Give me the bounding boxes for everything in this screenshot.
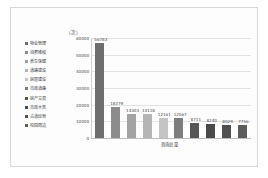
legend-item-label: 消费维权 [30,50,46,55]
bar-value-label: 8240 [206,118,216,123]
bar[interactable] [206,124,215,138]
legend-item-label: 物业管理 [30,41,46,46]
y-axis-unit-label: （次） [66,29,81,35]
legend-item-label: 房屋建设 [30,77,46,82]
legend-item[interactable]: 市政道路 [25,85,69,92]
legend-item[interactable]: 房屋建设 [25,76,69,83]
bar-value-label: 8711 [191,117,201,122]
bar-slot[interactable]: 12067 [174,38,183,138]
bar-value-label: 8029 [222,119,232,124]
legend-swatch-icon [25,97,28,100]
y-axis-tick-label: 20000 [76,102,89,107]
legend-item[interactable]: 消费维权 [25,49,69,56]
legend-item[interactable]: 房产交易 [25,95,69,102]
x-axis-label: 咨询总量 [161,141,178,147]
legend-item-label: 房产交易 [30,96,46,101]
bar-slot[interactable]: 56783 [95,38,104,138]
bar-series: 5678318379143031411812161120678711824080… [91,38,251,138]
bar-value-label: 14303 [126,108,139,113]
y-axis-tick-label: 30000 [76,86,89,91]
chart-legend: 物业管理消费维权养生保健道路建设房屋建设市政道路房产交易市政水务占道经营校园周边 [25,40,69,129]
legend-item-label: 市政道路 [30,86,46,91]
bar[interactable] [174,118,183,138]
bar[interactable] [111,107,120,138]
bar-slot[interactable]: 14303 [127,38,136,138]
legend-swatch-icon [25,124,28,127]
bar-slot[interactable]: 18379 [111,38,120,138]
legend-item-label: 市政水务 [30,105,46,110]
legend-item-label: 养生保健 [30,59,46,64]
chart-card: 物业管理消费维权养生保健道路建设房屋建设市政道路房产交易市政水务占道经营校园周边… [10,7,258,167]
bar-value-label: 14118 [142,108,155,113]
legend-item-label: 占道经营 [30,114,46,119]
legend-item[interactable]: 道路建设 [25,67,69,74]
y-axis-ticks: 6000050000400003000020000100000 [65,38,89,138]
y-axis-tick-label: 50000 [76,52,89,57]
x-axis-line [91,138,251,139]
bar-slot[interactable]: 14118 [143,38,152,138]
bar-value-label: 18379 [110,101,123,106]
legend-swatch-icon [25,69,28,72]
bar-slot[interactable]: 8711 [190,38,199,138]
y-axis-tick-label: 60000 [76,36,89,41]
bar-slot[interactable]: 8240 [206,38,215,138]
legend-item[interactable]: 占道经营 [25,113,69,120]
legend-swatch-icon [25,78,28,81]
bar-slot[interactable]: 8029 [222,38,231,138]
bar[interactable] [238,125,247,138]
legend-item[interactable]: 物业管理 [25,40,69,47]
legend-swatch-icon [25,42,28,45]
legend-swatch-icon [25,87,28,90]
legend-item-label: 道路建设 [30,68,46,73]
bar[interactable] [143,114,152,138]
bar[interactable] [159,118,168,138]
legend-item[interactable]: 校园周边 [25,122,69,129]
chart-plot-area: 物业管理消费维权养生保健道路建设房屋建设市政道路房产交易市政水务占道经营校园周边… [11,8,259,168]
legend-item[interactable]: 养生保健 [25,58,69,65]
bar-slot[interactable]: 7756 [238,38,247,138]
y-axis-tick-label: 10000 [76,119,89,124]
legend-swatch-icon [25,115,28,118]
bar-value-label: 7756 [238,119,248,124]
bar[interactable] [190,123,199,138]
bar-value-label: 56783 [94,37,107,42]
legend-item[interactable]: 市政水务 [25,104,69,111]
legend-swatch-icon [25,51,28,54]
legend-swatch-icon [25,106,28,109]
y-axis-tick-label: 0 [86,136,89,141]
legend-item-label: 校园周边 [30,123,46,128]
bar-value-label: 12067 [174,112,187,117]
bar[interactable] [127,114,136,138]
bar-value-label: 12161 [158,112,171,117]
bar[interactable] [95,43,104,138]
bar-slot[interactable]: 12161 [159,38,168,138]
legend-swatch-icon [25,60,28,63]
y-axis-tick-label: 40000 [76,69,89,74]
bar[interactable] [222,125,231,138]
